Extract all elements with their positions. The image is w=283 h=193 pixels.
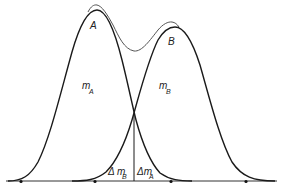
delta-mass-b-label: Δ m B [107, 166, 127, 180]
mass-b-label: m B [159, 80, 171, 95]
baseline-marker-dot [19, 180, 22, 183]
mass-a-label: m A [82, 80, 94, 95]
svg-text:B: B [166, 88, 171, 95]
baseline-marker-dot [244, 180, 247, 183]
peak-b-curve [72, 27, 275, 181]
delta-mass-a-label: Δm A [136, 166, 154, 180]
svg-text:A: A [88, 88, 94, 95]
peak-b-label: B [168, 36, 175, 47]
overlapping-peaks-diagram: A B m A m B Δ m B Δm A [0, 0, 283, 193]
baseline-marker-dot [169, 180, 172, 183]
peak-a-curve [8, 10, 192, 181]
svg-text:A: A [148, 173, 154, 180]
peak-a-label: A [89, 20, 97, 31]
svg-text:B: B [122, 173, 127, 180]
baseline-marker-dot [93, 180, 96, 183]
